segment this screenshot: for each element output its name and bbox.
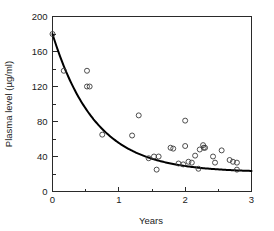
x-tick-label-1: 1 [116,194,121,205]
x-tick-label-2: 2 [183,194,188,205]
x-axis-title: Years [139,215,163,226]
y-tick-label-80: 80 [37,116,48,127]
y-tick-label-0: 0 [42,186,47,197]
x-tick-label-0: 0 [50,194,55,205]
chart-canvas: 04080120160200 0123 Years Plasma level (… [0,0,274,231]
y-axis-title: Plasma level (µg/ml) [3,61,14,147]
y-tick-label-40: 40 [37,151,48,162]
x-tick-label-3: 3 [249,194,254,205]
y-tick-label-120: 120 [32,81,48,92]
y-tick-label-200: 200 [32,11,48,22]
plasma-decay-chart: 04080120160200 0123 Years Plasma level (… [0,0,274,231]
y-tick-label-160: 160 [32,46,48,57]
